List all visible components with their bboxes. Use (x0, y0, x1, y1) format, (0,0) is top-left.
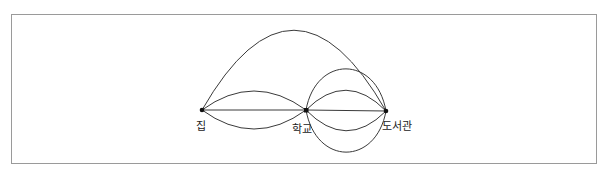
node-school (304, 108, 309, 113)
edge-school-library-bottom-inner (306, 110, 386, 131)
node-library (384, 109, 389, 114)
edge-home-school-top (202, 91, 306, 110)
edge-school-library-straight (306, 110, 386, 111)
node-label-library: 도서관 (382, 121, 412, 132)
route-graph (0, 0, 605, 179)
edge-home-library (202, 30, 386, 111)
node-home (200, 108, 205, 113)
edge-home-school-bottom (202, 110, 306, 129)
node-label-school: 학교 (292, 124, 312, 135)
node-label-home: 집 (196, 121, 206, 132)
edge-school-library-top-inner (306, 90, 386, 111)
